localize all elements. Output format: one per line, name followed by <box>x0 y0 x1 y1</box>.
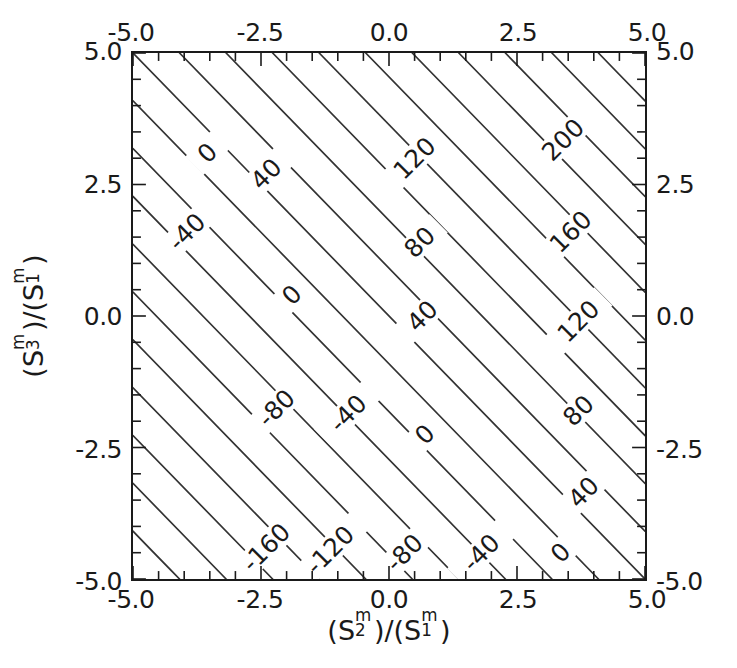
plot-area: 040120200-4080160040120-80-4008040-160-1… <box>131 51 647 581</box>
contour-label-group: 0 <box>537 529 583 575</box>
x-tick-label-top: -2.5 <box>237 20 284 45</box>
contour-line <box>598 53 645 101</box>
y-tick-label-right: 0.0 <box>656 304 694 329</box>
x-title-S1: S <box>404 615 421 646</box>
contour-line <box>133 531 180 579</box>
x-tick-label-bottom: 2.5 <box>499 587 537 612</box>
x-axis-title: (Sm2)/(Sm1) <box>327 613 450 644</box>
contour-label-group: 0 <box>184 130 230 176</box>
contour-line <box>133 196 505 579</box>
y-tick-label-left: 5.0 <box>84 39 122 64</box>
y-tick-label-left: -5.0 <box>75 569 122 594</box>
contour-label-group: -120 <box>289 509 371 579</box>
y-tick-label-left: -2.5 <box>75 436 122 461</box>
contour-lines: 040120200-4080160040120-80-4008040-160-1… <box>133 53 645 579</box>
y-tick-label-right: -5.0 <box>656 569 703 594</box>
contour-label-group: -40 <box>152 197 222 267</box>
contour-label-group: 120 <box>543 286 613 356</box>
contour-label-group: 160 <box>536 197 606 267</box>
x-tick-label-top: 2.5 <box>499 20 537 45</box>
contour-label-group: 200 <box>528 105 598 175</box>
contour-label-group: -40 <box>313 378 383 448</box>
contour-line <box>133 483 226 579</box>
contour-label-group: 0 <box>268 272 314 318</box>
x-tick-label-bottom: 0.0 <box>370 587 408 612</box>
y-tick-label-left: 2.5 <box>84 171 122 196</box>
x-tick-label-top: 0.0 <box>370 20 408 45</box>
contour-line <box>133 388 319 579</box>
contour-label-group: 80 <box>391 213 449 271</box>
x-title-S2: S <box>338 615 355 646</box>
y-tick-label-right: -2.5 <box>656 436 703 461</box>
y-title-S3: S <box>18 350 49 367</box>
contour-label-group: 40 <box>554 463 612 521</box>
y-tick-label-right: 2.5 <box>656 171 694 196</box>
contour-label-group: 120 <box>379 123 449 193</box>
y-tick-label-right: 5.0 <box>656 39 694 64</box>
contour-figure: 040120200-4080160040120-80-4008040-160-1… <box>0 0 737 668</box>
x-tick-label-bottom: -2.5 <box>237 587 284 612</box>
y-tick-label-left: 0.0 <box>84 304 122 329</box>
contour-label-group: -80 <box>241 373 311 443</box>
contour-label-group: -40 <box>446 518 516 579</box>
y-axis-title: (Sm3)/(Sm1) <box>16 254 47 377</box>
contour-label-group: 40 <box>237 145 295 203</box>
contour-line <box>412 53 645 292</box>
contour-line <box>273 53 645 436</box>
y-title-S1: S <box>18 284 49 301</box>
contour-label-group: 80 <box>549 381 607 439</box>
contour-label-group: 40 <box>393 287 451 345</box>
